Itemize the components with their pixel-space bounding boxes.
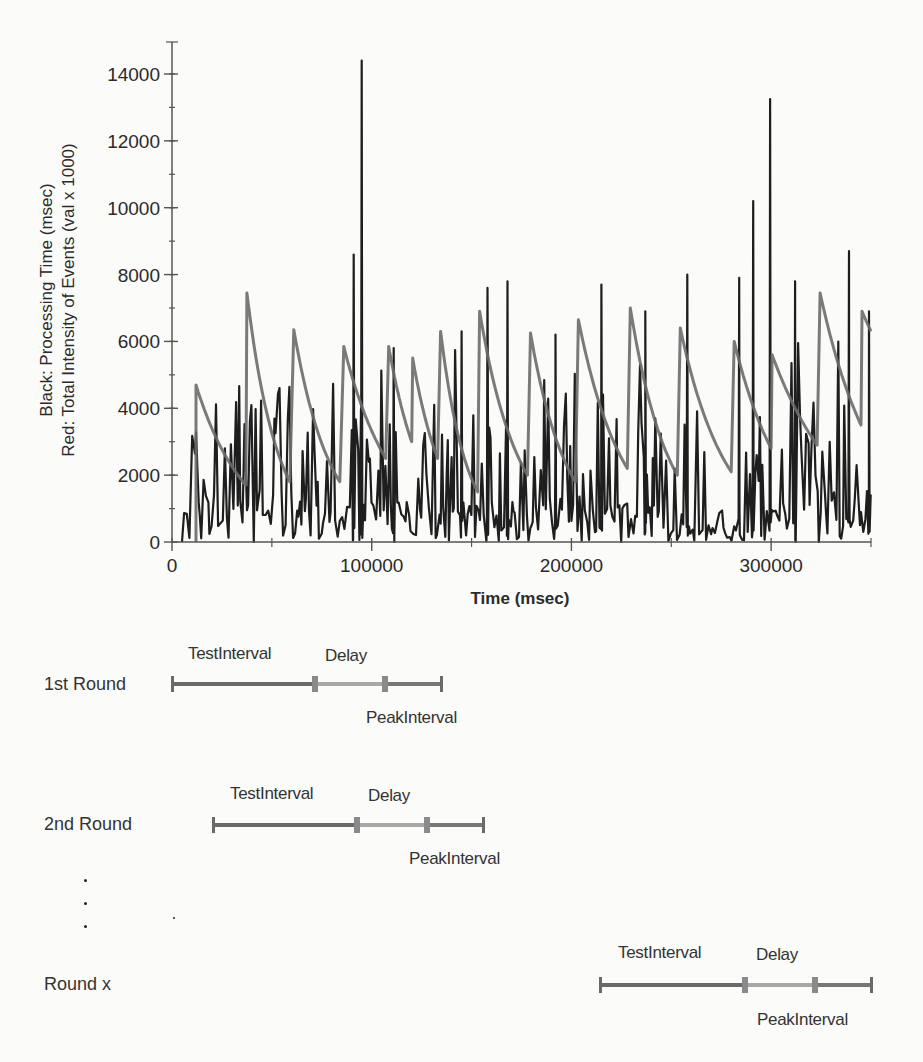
test-interval-label: TestInterval — [618, 943, 701, 963]
delay-label: Delay — [368, 786, 410, 806]
round-timeline — [212, 817, 485, 833]
delay-segment — [315, 682, 385, 686]
end-cap — [870, 977, 873, 993]
y-tick-label: 4000 — [118, 398, 160, 419]
peak-interval-label: PeakInterval — [409, 849, 500, 869]
peak-interval-segment — [427, 823, 482, 827]
peak-interval-label: PeakInterval — [366, 708, 457, 728]
delay-label: Delay — [756, 945, 798, 965]
start-cap — [212, 817, 215, 833]
x-tick-label: 100000 — [340, 555, 403, 576]
round-label: 2nd Round — [44, 814, 132, 835]
delay-end-marker — [382, 676, 388, 692]
delay-end-marker — [424, 817, 430, 833]
ellipsis-dot — [84, 879, 87, 882]
delay-segment — [745, 983, 815, 987]
test-end-marker — [354, 817, 360, 833]
y-axis-title-line-1: Black: Processing Time (msec) — [37, 183, 56, 416]
x-tick-label: 0 — [167, 555, 178, 576]
ellipsis-dot — [84, 925, 87, 928]
test-interval-label: TestInterval — [230, 784, 313, 804]
test-end-marker — [312, 676, 318, 692]
y-tick-label: 6000 — [118, 331, 160, 352]
end-cap — [482, 817, 485, 833]
ellipsis-dot — [84, 902, 87, 905]
start-cap — [171, 676, 174, 692]
test-interval-segment — [599, 983, 745, 987]
stray-dot — [173, 917, 175, 919]
delay-label: Delay — [325, 646, 367, 666]
delay-end-marker — [812, 977, 818, 993]
test-interval-segment — [171, 682, 315, 686]
y-tick-label: 10000 — [107, 198, 160, 219]
round-label: Round x — [44, 974, 111, 995]
round-timeline — [171, 676, 443, 692]
y-tick-label: 0 — [149, 532, 160, 553]
test-interval-segment — [212, 823, 357, 827]
round-label: 1st Round — [44, 674, 126, 695]
start-cap — [599, 977, 602, 993]
test-end-marker — [742, 977, 748, 993]
test-interval-label: TestInterval — [188, 644, 271, 664]
y-axis-title-line-2: Red: Total Intensity of Events (val x 10… — [59, 143, 78, 456]
plot-area — [182, 61, 871, 542]
x-axis-title: Time (msec) — [471, 589, 570, 608]
end-cap — [440, 676, 443, 692]
time-series-chart: 0200040006000800010000120001400001000002… — [0, 0, 923, 640]
y-tick-label: 12000 — [107, 131, 160, 152]
round-timeline — [599, 977, 873, 993]
x-tick-label: 200000 — [540, 555, 603, 576]
peak-interval-segment — [385, 682, 440, 686]
x-tick-label: 300000 — [739, 555, 802, 576]
y-tick-label: 8000 — [118, 265, 160, 286]
peak-interval-segment — [815, 983, 870, 987]
y-tick-label: 2000 — [118, 465, 160, 486]
peak-interval-label: PeakInterval — [757, 1010, 848, 1030]
y-tick-label: 14000 — [107, 64, 160, 85]
delay-segment — [357, 823, 427, 827]
